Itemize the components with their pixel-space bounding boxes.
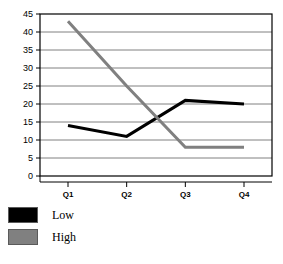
y-tick-label: 40 [23, 27, 33, 37]
y-tick-label: 10 [23, 135, 33, 145]
y-tick-label: 0 [28, 171, 33, 181]
y-axis-ticks: 051015202530354045 [23, 9, 40, 181]
y-tick-label: 25 [23, 81, 33, 91]
legend-item-high: High [8, 226, 168, 248]
x-tick-label: Q4 [239, 190, 250, 199]
x-tick-label: Q3 [180, 190, 191, 199]
y-tick-label: 15 [23, 117, 33, 127]
legend-swatch-low [8, 207, 38, 223]
y-tick-label: 45 [23, 9, 33, 19]
x-axis-ticks: Q1Q2Q3Q4 [63, 182, 250, 199]
x-tick-label: Q1 [63, 190, 74, 199]
y-tick-label: 20 [23, 99, 33, 109]
legend-item-low: Low [8, 204, 168, 226]
line-chart: 051015202530354045 Q1Q2Q3Q4 Low High [0, 0, 283, 264]
y-tick-label: 5 [28, 153, 33, 163]
plot-background [40, 14, 272, 176]
chart-legend: Low High [8, 204, 168, 248]
plot-area: 051015202530354045 Q1Q2Q3Q4 [0, 0, 283, 200]
x-tick-label: Q2 [121, 190, 132, 199]
legend-label-low: Low [52, 207, 74, 223]
plot-svg: 051015202530354045 Q1Q2Q3Q4 [0, 0, 283, 200]
legend-label-high: High [52, 229, 76, 245]
y-tick-label: 35 [23, 45, 33, 55]
y-tick-label: 30 [23, 63, 33, 73]
legend-swatch-high [8, 229, 38, 245]
